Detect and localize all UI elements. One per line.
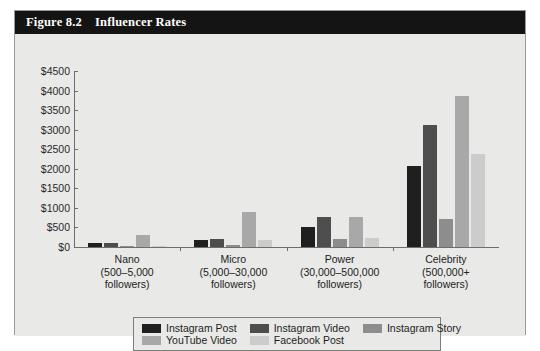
legend-swatch (142, 336, 161, 345)
bar (301, 227, 315, 247)
category-label-line: followers) (388, 278, 504, 291)
legend-swatch (250, 336, 269, 345)
legend-label: Instagram Video (274, 322, 350, 334)
category-label-line: followers) (282, 278, 398, 291)
category-label-line: (500–5,000 (69, 266, 185, 279)
category-label-line: Nano (69, 253, 185, 266)
legend-item[interactable]: Facebook Post (250, 334, 344, 346)
y-axis-tick-label: $3500 (41, 104, 74, 116)
bar (439, 219, 453, 247)
y-axis-tick-label: $4500 (41, 65, 74, 77)
category-label-line: (500,000+ (388, 266, 504, 279)
x-axis-category-label: Micro(5,000–30,000followers) (175, 253, 291, 291)
y-axis-tick-label: $500 (47, 221, 74, 233)
bar (455, 96, 469, 247)
bar (104, 243, 118, 247)
bar (423, 125, 437, 247)
bar (194, 240, 208, 247)
legend-row-bottom: YouTube VideoFacebook Post (142, 334, 434, 346)
x-axis-tick-mark (393, 247, 394, 251)
legend-row-top: Instagram PostInstagram VideoInstagram S… (142, 322, 434, 334)
x-axis-tick-mark (180, 247, 181, 251)
legend-item[interactable]: YouTube Video (142, 334, 237, 346)
chart-legend: Instagram PostInstagram VideoInstagram S… (133, 317, 441, 351)
bar (407, 166, 421, 247)
y-axis-tick-label: $3000 (41, 123, 74, 135)
bar (226, 245, 240, 247)
legend-label: Instagram Post (166, 322, 237, 334)
y-axis-tick-label: $4000 (41, 84, 74, 96)
category-label-line: Power (282, 253, 398, 266)
bar-group (287, 71, 393, 247)
category-label-line: followers) (175, 278, 291, 291)
bar (88, 243, 102, 247)
bar (136, 235, 150, 248)
y-axis-tick-label: $2500 (41, 143, 74, 155)
category-label-line: followers) (69, 278, 185, 291)
legend-label: Facebook Post (274, 334, 344, 346)
bar (317, 217, 331, 247)
legend-item[interactable]: Instagram Post (142, 322, 237, 334)
legend-swatch (142, 324, 161, 333)
y-axis-tick-mark (74, 247, 78, 248)
chart-area: $4500$4000$3500$3000$2500$2000$1500$1000… (15, 34, 525, 336)
bar (365, 238, 379, 247)
y-axis-tick-label: $2000 (41, 162, 74, 174)
category-label-line: (5,000–30,000 (175, 266, 291, 279)
y-axis-tick-label: $1500 (41, 182, 74, 194)
x-axis-tick-mark (287, 247, 288, 251)
y-axis-tick-label: $0 (58, 241, 74, 253)
figure-title-bar: Figure 8.2 Influencer Rates (15, 11, 525, 34)
bar (152, 246, 166, 247)
bar-group (393, 71, 499, 247)
figure-title: Influencer Rates (95, 15, 187, 30)
plot-frame: $4500$4000$3500$3000$2500$2000$1500$1000… (74, 71, 499, 247)
bar (471, 154, 485, 247)
bar (210, 239, 224, 247)
x-axis-category-label: Celebrity(500,000+followers) (388, 253, 504, 291)
bar-group (74, 71, 180, 247)
legend-swatch (250, 324, 269, 333)
figure-number: Figure 8.2 (26, 15, 82, 30)
x-axis-category-label: Power(30,000–500,000followers) (282, 253, 398, 291)
bar (120, 246, 134, 247)
legend-label: YouTube Video (166, 334, 237, 346)
category-label-line: Celebrity (388, 253, 504, 266)
category-label-line: (30,000–500,000 (282, 266, 398, 279)
bar (258, 240, 272, 247)
bar-group (180, 71, 286, 247)
legend-label: Instagram Story (387, 322, 461, 334)
bar (242, 212, 256, 247)
legend-item[interactable]: Instagram Video (250, 322, 350, 334)
figure-card: Figure 8.2 Influencer Rates $4500$4000$3… (14, 10, 526, 335)
bar (349, 217, 363, 247)
legend-item[interactable]: Instagram Story (363, 322, 461, 334)
bar (333, 239, 347, 247)
category-label-line: Micro (175, 253, 291, 266)
x-axis-category-label: Nano(500–5,000followers) (69, 253, 185, 291)
y-axis-tick-label: $1000 (41, 201, 74, 213)
legend-swatch (363, 324, 382, 333)
